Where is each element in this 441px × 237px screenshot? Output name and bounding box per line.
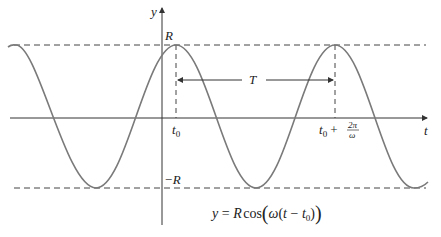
cosine-curve [8, 45, 428, 188]
fraction-denominator: ω [349, 130, 355, 140]
t0-label: t0 [172, 122, 181, 139]
t-axis-label: t [424, 123, 428, 138]
bottom-level-label: −R [164, 172, 181, 187]
period-label: T [249, 72, 257, 87]
equation: y = R cos(ω(t − t0)) [210, 202, 322, 225]
y-axis-label: y [149, 4, 157, 19]
t0-plus-period-label: t0+ [319, 122, 337, 139]
cosine-diagram: y t R −R T t0 t0+ 2π ω y = R cos(ω(t − t… [0, 0, 441, 237]
fraction-numerator: 2π [348, 120, 358, 130]
top-level-label: R [164, 28, 173, 43]
